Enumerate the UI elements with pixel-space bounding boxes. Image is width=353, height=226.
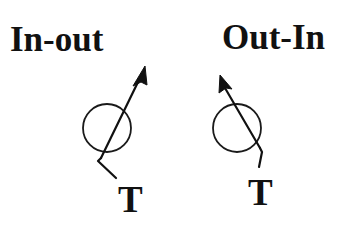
terminal-label-in-out: T [118,179,143,220]
terminal-label-out-in: T [248,172,273,213]
terminal-lead-in-out [98,158,116,178]
panel-out-in: Out-In T [213,18,325,213]
arrow-shaft-in-out [101,80,139,158]
in-out-out-in-diagram: In-out T Out-In T [0,0,353,226]
arrowhead-icon [133,66,147,86]
circle-icon [213,104,261,152]
panel-title-out-in: Out-In [222,18,325,57]
arrow-shaft-out-in [225,88,260,148]
panel-in-out: In-out T [10,20,147,220]
terminal-lead-out-in [259,148,262,167]
panel-title-in-out: In-out [10,20,104,59]
